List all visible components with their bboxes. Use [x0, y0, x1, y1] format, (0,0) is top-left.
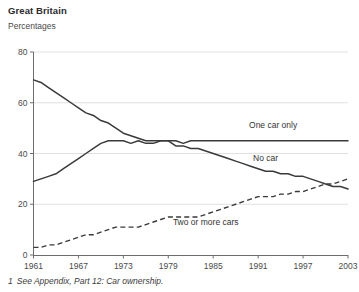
x-axis-label: 1961 [24, 261, 43, 271]
footnote-marker: 1 [8, 276, 13, 286]
chart-page: Great Britain Percentages 020406080 1961… [0, 0, 359, 292]
x-axis-label: 1973 [114, 261, 133, 271]
y-axis-label: 0 [23, 250, 28, 260]
x-axis-label: 1985 [204, 261, 223, 271]
x-axis-label: 1967 [69, 261, 88, 271]
y-axis-label: 20 [18, 199, 28, 209]
footnote-text: See Appendix, Part 12: Car ownership. [17, 276, 164, 286]
y-axis-label: 60 [18, 98, 28, 108]
line-chart-svg: 020406080 196119671973197919851991199720… [0, 0, 359, 292]
series-line-two-or-more-cars [34, 179, 349, 248]
x-axis-label: 1997 [294, 261, 313, 271]
y-axis-label: 40 [18, 149, 28, 159]
footnote: 1See Appendix, Part 12: Car ownership. [8, 276, 163, 286]
x-axis-label: 1979 [159, 261, 178, 271]
gridlines-group [34, 52, 349, 204]
series-label-no-car: No car [253, 153, 278, 163]
series-line-no-car [34, 80, 349, 189]
series-label-one-car-only: One car only [249, 120, 298, 130]
series-label-two-or-more-cars: Two or more cars [173, 217, 239, 227]
series-line-one-car-only [34, 141, 349, 182]
y-axis-label: 80 [18, 47, 28, 57]
x-axis-label: 2003 [339, 261, 358, 271]
y-axis-ticks-group: 020406080 [18, 47, 33, 260]
x-axis-ticks-group: 19611967197319791985199119972003 [24, 255, 358, 271]
x-axis-label: 1991 [249, 261, 268, 271]
chart-plot-area: 020406080 196119671973197919851991199720… [0, 0, 359, 292]
